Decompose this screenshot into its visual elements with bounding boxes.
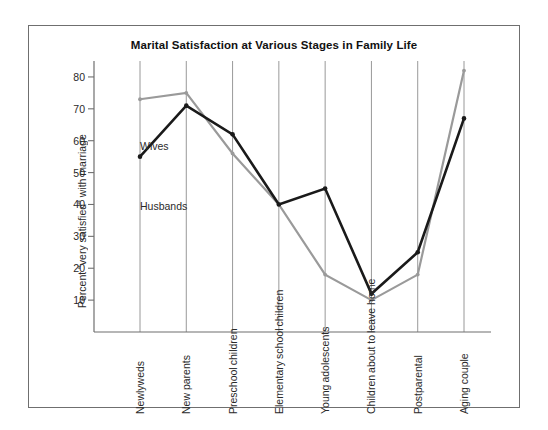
data-point	[230, 132, 235, 137]
plot-area: 1020304050607080	[94, 61, 491, 332]
x-axis-category-label-line: Newlyweds	[135, 361, 147, 414]
x-axis-category-label: Newlyweds	[135, 340, 147, 414]
data-point	[184, 103, 189, 108]
x-axis-category-label-line: children	[274, 290, 286, 327]
data-point	[323, 186, 328, 191]
x-axis-category-label: Youngadolescents	[320, 340, 332, 414]
data-point	[462, 116, 467, 121]
series-annotation-husbands: Husbands	[140, 200, 187, 212]
y-axis-tick-label: 70	[73, 103, 85, 115]
series-line-wives	[140, 71, 464, 301]
x-axis-category-label: Childrenabout toleave home	[366, 340, 378, 414]
chart-title: Marital Satisfaction at Various Stages i…	[29, 39, 519, 51]
data-point	[138, 154, 143, 159]
axes-group	[94, 61, 491, 332]
data-point	[231, 152, 235, 156]
x-axis-category-label-line: Children	[366, 375, 378, 414]
x-axis-category-label-line: Preschool	[228, 367, 240, 414]
chart-figure-frame: Marital Satisfaction at Various Stages i…	[28, 25, 520, 408]
x-axis-category-label-line: school	[274, 329, 286, 359]
x-axis-category-label-line: New parents	[181, 355, 193, 414]
data-point	[415, 250, 420, 255]
data-point	[138, 97, 142, 101]
data-point	[277, 202, 282, 207]
x-axis-category-label-line: Elementary	[274, 361, 286, 414]
y-axis-title: Percent "very satisfied" with marriage	[76, 86, 88, 357]
x-axis-category-label-line: Aging couple	[459, 353, 471, 414]
series-annotation-wives: Wives	[140, 140, 169, 152]
x-axis-category-label: Postparental	[413, 340, 425, 414]
x-axis-category-label: Aging couple	[459, 340, 471, 414]
y-axis-tick-label: 40	[73, 198, 85, 210]
data-point	[323, 273, 327, 277]
data-point	[416, 273, 420, 277]
y-axis-tick-label: 10	[73, 294, 85, 306]
x-axis-category-label-line: adolescents	[320, 327, 332, 383]
data-point	[184, 91, 188, 95]
y-axis-tick-label: 20	[73, 262, 85, 274]
x-axis-category-label-line: about to	[366, 335, 378, 373]
data-point	[462, 69, 466, 73]
x-axis-category-label: Elementaryschoolchildren	[274, 340, 286, 414]
series-line-husbands	[140, 106, 464, 294]
y-axis-ticks-group	[88, 77, 94, 300]
x-axis-category-label-line: children	[228, 329, 240, 366]
x-axis-category-label-line: Postparental	[413, 355, 425, 414]
y-axis-tick-label: 50	[73, 167, 85, 179]
x-axis-category-label-line: leave home	[366, 279, 378, 333]
x-axis-category-label-line: Young	[320, 385, 332, 414]
data-series-group	[138, 69, 467, 302]
y-axis-tick-label: 60	[73, 135, 85, 147]
y-axis-tick-label: 80	[73, 71, 85, 83]
chart-plot-svg	[94, 61, 491, 332]
x-axis-category-label: Preschoolchildren	[228, 340, 240, 414]
y-axis-tick-label: 30	[73, 230, 85, 242]
x-axis-category-label: New parents	[181, 340, 193, 414]
